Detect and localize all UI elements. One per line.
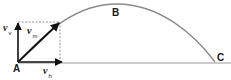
label-v-resultant: vm: [27, 26, 36, 36]
point-label-a: A: [13, 64, 20, 74]
label-v-horizontal: vh: [43, 66, 51, 76]
label-v-vertical: vv: [3, 23, 10, 33]
point-label-c: C: [217, 53, 224, 63]
resultant-velocity-vector: [18, 23, 59, 62]
projectile-diagram: vv vm vh A B C: [0, 0, 231, 80]
point-label-b: B: [112, 8, 119, 18]
